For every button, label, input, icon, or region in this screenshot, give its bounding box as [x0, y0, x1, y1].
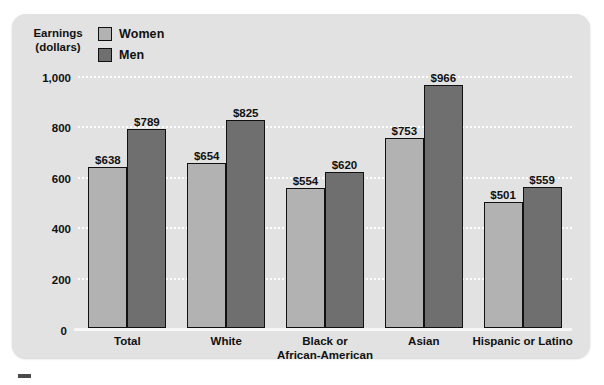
bar-value-label: $966 — [430, 72, 456, 84]
legend-label-men: Men — [119, 48, 144, 62]
x-axis-category-label-line2: African-American — [277, 348, 373, 362]
legend-swatch-men-icon — [98, 48, 112, 62]
bar-value-label: $825 — [233, 107, 259, 119]
bar-value-label: $789 — [134, 116, 160, 128]
plot-area: 02004006008001,000$638$789Total$654$825W… — [78, 76, 572, 328]
y-axis-tick-label: 600 — [52, 173, 71, 185]
x-axis-category-label-line1: Hispanic or Latino — [472, 334, 572, 348]
bar-group: $654$825White — [177, 76, 276, 328]
y-axis-tick-label: 400 — [52, 223, 71, 235]
bar-women: $638 — [88, 167, 127, 328]
bar-value-label: $501 — [490, 189, 516, 201]
x-axis-category-label-line1: White — [211, 334, 242, 348]
y-axis-title: Earnings (dollars) — [22, 26, 94, 54]
x-axis-category-label-line1: Black or — [277, 334, 373, 348]
bar-men: $559 — [523, 187, 562, 328]
bar-women: $753 — [385, 138, 424, 328]
bar-men: $620 — [325, 172, 364, 328]
y-axis-tick-label: 800 — [52, 122, 71, 134]
bar-men: $789 — [127, 129, 166, 328]
legend-label-women: Women — [119, 27, 164, 41]
legend-swatch-women-icon — [98, 27, 112, 41]
y-axis-tick-label: 200 — [52, 274, 71, 286]
bar-women: $554 — [286, 188, 325, 328]
x-axis-category-label-line1: Asian — [408, 334, 439, 348]
x-axis-category-label: Hispanic or Latino — [472, 334, 572, 348]
page-corner-mark — [18, 374, 31, 378]
x-axis-category-label: White — [211, 334, 242, 348]
bar-value-label: $753 — [391, 125, 417, 137]
x-axis-category-label-line1: Total — [114, 334, 141, 348]
bar-group: $554$620Black orAfrican-American — [276, 76, 375, 328]
y-axis-title-line1: Earnings — [22, 26, 94, 40]
bar-women: $501 — [484, 202, 523, 328]
bar-group: $501$559Hispanic or Latino — [473, 76, 572, 328]
plot-inner: 02004006008001,000$638$789Total$654$825W… — [78, 76, 572, 328]
bar-value-label: $620 — [332, 159, 358, 171]
y-axis-tick-label: 1,000 — [42, 72, 71, 84]
bar-group: $753$966Asian — [374, 76, 473, 328]
legend-item-women: Women — [98, 23, 228, 44]
x-axis-category-label: Asian — [408, 334, 439, 348]
chart-panel: Earnings (dollars) Women Men 02004006008… — [12, 14, 590, 358]
bar-value-label: $654 — [194, 150, 220, 162]
x-axis-category-label: Black orAfrican-American — [277, 334, 373, 362]
bar-value-label: $554 — [293, 175, 319, 187]
legend-item-men: Men — [98, 44, 228, 65]
x-axis-category-label: Total — [114, 334, 141, 348]
y-axis-tick-label: 0 — [61, 325, 67, 337]
bar-men: $966 — [424, 85, 463, 328]
bar-women: $654 — [187, 163, 226, 328]
y-axis-title-line2: (dollars) — [22, 40, 94, 54]
x-axis-baseline: 0 — [74, 328, 572, 331]
bar-value-label: $559 — [529, 174, 555, 186]
chart-legend: Women Men — [98, 23, 228, 65]
bar-men: $825 — [226, 120, 265, 328]
bar-group: $638$789Total — [78, 76, 177, 328]
bar-value-label: $638 — [95, 154, 121, 166]
chart-figure: Earnings (dollars) Women Men 02004006008… — [0, 0, 604, 385]
